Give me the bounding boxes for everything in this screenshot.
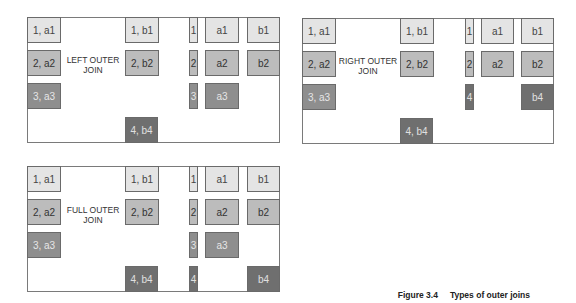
result-key-2: 2 — [189, 199, 198, 225]
result-a-1: a1 — [481, 18, 514, 44]
result-b-2: b2 — [247, 199, 280, 225]
right-table-row-4: 4, b4 — [125, 117, 158, 143]
left-table-row-3: 3, a3 — [27, 232, 61, 258]
join-type-line2: JOIN — [358, 66, 377, 76]
result-key-2: 2 — [189, 50, 198, 76]
result-key-3: 3 — [189, 232, 198, 258]
full-outer-join-panel: 1, a1 2, a2 3, a3 FULL OUTER JOIN 1, b1 … — [27, 166, 280, 292]
join-type-line1: FULL OUTER — [67, 205, 120, 215]
left-table-row-3: 3, a3 — [27, 83, 61, 109]
left-table-row-1: 1, a1 — [302, 18, 336, 44]
result-a-1: a1 — [205, 17, 239, 43]
right-table-row-1: 1, b1 — [125, 166, 159, 192]
join-type-line2: JOIN — [83, 65, 102, 75]
left-table-row-3: 3, a3 — [302, 84, 336, 110]
right-table-row-1: 1, b1 — [125, 17, 159, 43]
result-a-2: a2 — [205, 50, 239, 76]
result-b-1: b1 — [521, 18, 554, 44]
right-table-row-4: 4, b4 — [125, 266, 158, 292]
join-type-label: RIGHT OUTER JOIN — [336, 56, 400, 76]
result-key-3: 3 — [189, 83, 198, 109]
left-table-row-2: 2, a2 — [27, 199, 61, 225]
figure-title: Types of outer joins — [450, 290, 530, 300]
left-table-row-2: 2, a2 — [302, 51, 336, 77]
left-table-row-1: 1, a1 — [27, 17, 61, 43]
result-key-2: 2 — [465, 51, 474, 77]
result-key-4: 4 — [465, 84, 474, 110]
figure-number: Figure 3.4 — [398, 290, 438, 300]
result-a-1: a1 — [205, 166, 239, 192]
join-type-label: LEFT OUTER JOIN — [64, 55, 122, 75]
result-b-1: b1 — [247, 166, 280, 192]
join-type-line1: LEFT OUTER — [67, 55, 120, 65]
result-a-3: a3 — [205, 83, 239, 109]
left-table-row-2: 2, a2 — [27, 50, 61, 76]
result-b-4: b4 — [247, 266, 280, 292]
result-a-3: a3 — [205, 232, 239, 258]
right-table-row-2: 2, b2 — [125, 199, 159, 225]
join-type-line1: RIGHT OUTER — [339, 56, 397, 66]
figure-caption: Figure 3.4Types of outer joins — [393, 280, 530, 300]
result-b-4: b4 — [521, 84, 554, 110]
result-key-1: 1 — [465, 18, 474, 44]
result-key-1: 1 — [189, 17, 198, 43]
left-outer-join-panel: 1, a1 2, a2 3, a3 LEFT OUTER JOIN 1, b1 … — [27, 17, 280, 143]
result-b-2: b2 — [247, 50, 280, 76]
right-table-row-2: 2, b2 — [400, 51, 434, 77]
join-type-label: FULL OUTER JOIN — [64, 205, 122, 225]
right-table-row-4: 4, b4 — [400, 118, 433, 144]
result-a-2: a2 — [205, 199, 239, 225]
right-table-row-2: 2, b2 — [125, 50, 159, 76]
join-type-line2: JOIN — [83, 215, 102, 225]
right-outer-join-panel: 1, a1 2, a2 3, a3 RIGHT OUTER JOIN 1, b1… — [302, 18, 554, 144]
result-b-2: b2 — [521, 51, 554, 77]
result-key-1: 1 — [189, 166, 198, 192]
result-b-1: b1 — [247, 17, 280, 43]
left-table-row-1: 1, a1 — [27, 166, 61, 192]
result-key-4: 4 — [189, 266, 198, 292]
result-a-2: a2 — [481, 51, 514, 77]
right-table-row-1: 1, b1 — [400, 18, 434, 44]
